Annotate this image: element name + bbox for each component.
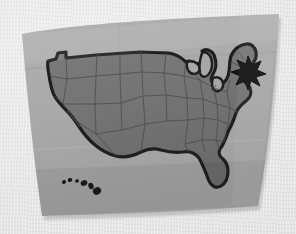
screenshot-root: Paper map of the contiguous United State… <box>0 0 296 234</box>
map-figure <box>0 0 296 234</box>
